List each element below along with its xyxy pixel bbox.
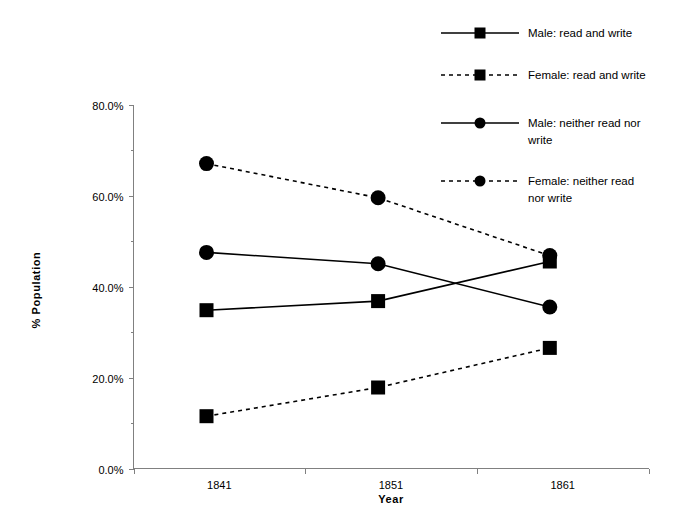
legend-label: Male: read and write: [528, 27, 632, 39]
y-tick-label: 20.0%: [92, 373, 123, 385]
data-point: [199, 156, 214, 171]
x-axis-ticks: [135, 469, 650, 474]
data-point: [542, 248, 557, 263]
legend-item-3[interactable]: Female: neither readnor write: [441, 175, 634, 204]
data-point: [371, 190, 386, 205]
data-point: [371, 256, 386, 271]
x-tick-label: 1841: [207, 479, 231, 491]
legend-label-line2: nor write: [528, 192, 572, 204]
y-tick-label: 0.0%: [98, 464, 123, 476]
x-axis: 184118511861 Year: [134, 469, 650, 506]
data-point: [371, 381, 385, 395]
series-3: [199, 156, 557, 263]
data-point: [371, 294, 385, 308]
y-tick-label: 80.0%: [92, 100, 123, 112]
y-axis-title: % Population: [30, 252, 42, 329]
legend-label: Female: neither read: [528, 175, 634, 187]
legend-marker-circle-icon: [475, 176, 486, 187]
data-point: [200, 303, 214, 317]
series-layer: [199, 156, 557, 423]
data-point: [542, 300, 557, 315]
data-point: [543, 341, 557, 355]
data-point: [199, 245, 214, 260]
legend-item-0[interactable]: Male: read and write: [441, 27, 632, 39]
y-tick-label: 60.0%: [92, 191, 123, 203]
y-axis: 0.0%20.0%40.0%60.0%80.0% % Population: [30, 100, 134, 476]
series-line: [207, 164, 550, 256]
legend-label: Female: read and write: [528, 69, 646, 81]
x-tick-label: 1861: [550, 479, 574, 491]
literacy-line-chart: 0.0%20.0%40.0%60.0%80.0% % Population 18…: [0, 0, 682, 531]
series-1: [200, 341, 557, 423]
legend-marker-square-icon: [475, 28, 486, 39]
y-axis-tick-labels: 0.0%20.0%40.0%60.0%80.0%: [92, 100, 123, 476]
y-axis-ticks: [129, 106, 134, 470]
data-point: [200, 409, 214, 423]
legend-marker-circle-icon: [475, 118, 486, 129]
legend-marker-square-icon: [475, 70, 486, 81]
x-axis-title: Year: [378, 493, 404, 505]
legend-label-line2: write: [527, 134, 552, 146]
x-axis-tick-labels: 184118511861: [207, 479, 575, 491]
y-tick-label: 40.0%: [92, 282, 123, 294]
x-tick-label: 1851: [379, 479, 403, 491]
legend-item-1[interactable]: Female: read and write: [441, 69, 646, 81]
chart-canvas: 0.0%20.0%40.0%60.0%80.0% % Population 18…: [0, 0, 682, 531]
legend-label: Male: neither read nor: [528, 117, 641, 129]
legend-item-2[interactable]: Male: neither read norwrite: [441, 117, 641, 146]
chart-legend: Male: read and writeFemale: read and wri…: [441, 27, 646, 204]
